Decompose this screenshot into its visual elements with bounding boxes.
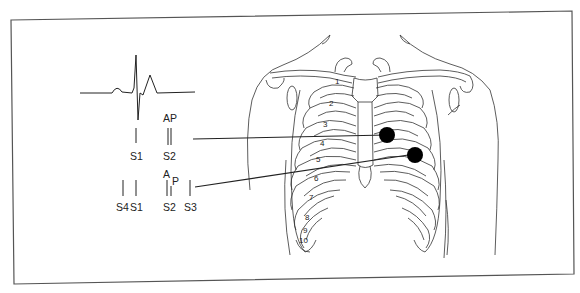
figure-frame: [11, 11, 574, 284]
left-shoulder-outline: [247, 35, 330, 190]
s3-label: S3: [184, 201, 197, 213]
rib-number-8: 8: [305, 213, 310, 222]
left-ribs: [291, 85, 356, 252]
rib-number-9: 9: [303, 226, 308, 235]
right-ribs: [374, 85, 460, 255]
rib-number-10: 10: [299, 236, 308, 245]
rib-number-6: 6: [314, 174, 319, 183]
xiphoid: [359, 166, 371, 188]
leader-line-lower: [195, 154, 415, 187]
a-component-label: A: [163, 168, 170, 180]
p-component-label: P: [172, 175, 179, 187]
heart-sounds-diagram: S1 AP S2 S4 S1 A P S2 S3: [0, 0, 580, 293]
s1-label-2: S1: [130, 201, 143, 213]
s2-label: S2: [163, 150, 176, 162]
right-clavicle: [378, 76, 466, 83]
rib-number-2: 2: [329, 99, 334, 108]
right-shoulder-outline: [400, 35, 498, 255]
rib-number-4: 4: [320, 139, 325, 148]
s2-components-label: AP: [163, 112, 177, 124]
rib-number-7: 7: [309, 193, 314, 202]
rib-number-1: 1: [335, 77, 340, 86]
s2-label-2: S2: [163, 201, 176, 213]
rib-number-5: 5: [316, 155, 321, 164]
normal-heart-sounds: S1 AP S2: [130, 112, 177, 162]
extra-heart-sounds: S4 S1 A P S2 S3: [116, 168, 197, 213]
s4-label: S4: [116, 201, 129, 213]
s1-label: S1: [130, 150, 143, 162]
sternum-body: [358, 102, 373, 168]
auscultation-point-upper: [379, 127, 395, 143]
rib-number-3: 3: [323, 120, 328, 129]
thorax-illustration: [247, 35, 498, 258]
manubrium: [352, 78, 378, 102]
auscultation-point-lower: [407, 147, 423, 163]
ecg-trace: [80, 55, 195, 120]
